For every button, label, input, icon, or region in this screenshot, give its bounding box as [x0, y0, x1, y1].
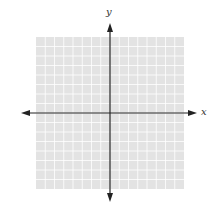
coordinate-plane-svg — [0, 0, 214, 211]
y-axis-down-arrow-icon — [107, 193, 113, 202]
x-axis-left-arrow-icon — [21, 110, 30, 116]
x-axis-label: x — [201, 107, 207, 117]
x-axis-right-arrow-icon — [188, 110, 197, 116]
y-axis-up-arrow-icon — [107, 23, 113, 32]
y-axis-label: y — [106, 7, 112, 17]
